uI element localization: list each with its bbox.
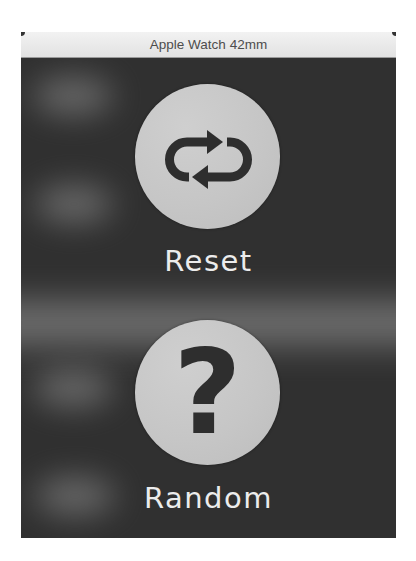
watch-screen: Reset ? Random bbox=[21, 58, 396, 538]
window-title: Apple Watch 42mm bbox=[150, 37, 267, 52]
random-button[interactable]: ? bbox=[135, 320, 280, 465]
background-blur-blob bbox=[35, 186, 113, 222]
question-mark-icon: ? bbox=[135, 320, 280, 465]
reset-label[interactable]: Reset bbox=[21, 244, 396, 278]
repeat-arrows-icon bbox=[135, 84, 280, 229]
reset-button[interactable] bbox=[135, 84, 280, 229]
background-blur-blob bbox=[33, 370, 113, 406]
window-corner-right bbox=[392, 32, 396, 36]
background-blur-blob bbox=[33, 78, 113, 114]
window-corner-left bbox=[21, 32, 25, 36]
window-titlebar[interactable]: Apple Watch 42mm bbox=[21, 32, 396, 58]
random-label[interactable]: Random bbox=[21, 481, 396, 515]
simulator-window: Apple Watch 42mm bbox=[21, 32, 396, 538]
